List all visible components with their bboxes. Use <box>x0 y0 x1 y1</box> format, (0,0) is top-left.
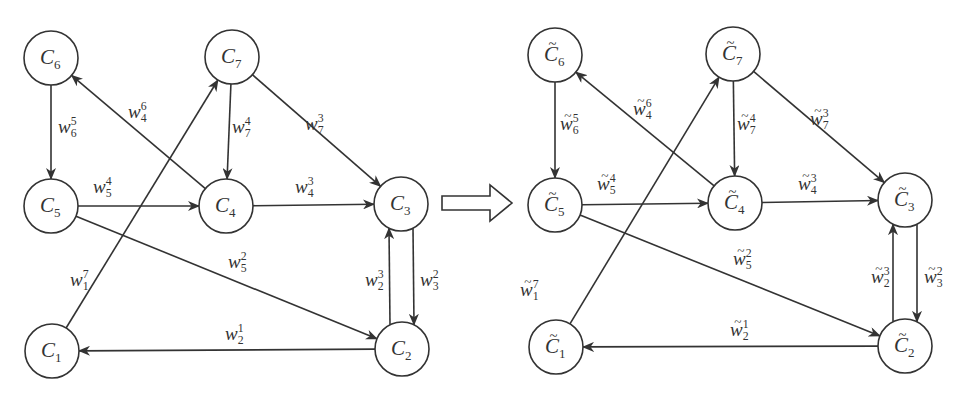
node-c6: C6 <box>24 31 78 85</box>
transform-arrow-icon <box>442 185 512 221</box>
tilde-accent: ~ <box>564 108 571 123</box>
weight-label-2-3: w23 <box>365 268 384 293</box>
node-c5: C5 <box>24 179 78 233</box>
weight-label-2-1: w21 <box>225 322 244 347</box>
tilde-accent: ~ <box>637 93 644 108</box>
edge-5-to-4 <box>582 203 708 204</box>
tilde-accent: ~ <box>601 168 608 183</box>
node-c2: C2~ <box>878 319 932 373</box>
tilde-accent: ~ <box>814 103 821 118</box>
tilde-accent: ~ <box>549 36 557 52</box>
node-c4: C4~ <box>708 176 762 230</box>
tilde-accent: ~ <box>549 186 557 202</box>
node-c6: C6~ <box>528 28 582 82</box>
transformed-graph: w65~w46~w74~w73~w54~w43~w17~w52~w23~w32~… <box>520 27 943 374</box>
tilde-accent: ~ <box>928 261 935 276</box>
tilde-accent: ~ <box>550 328 558 344</box>
node-c3: C3 <box>374 177 428 231</box>
weight-label-4-6: w46 <box>128 100 147 125</box>
edge-4-to-6 <box>576 72 714 186</box>
tilde-accent: ~ <box>741 108 748 123</box>
weight-label-6-5: w65 <box>58 115 77 140</box>
node-c2: C2 <box>375 322 429 376</box>
node-c3: C3~ <box>878 173 932 227</box>
tilde-accent: ~ <box>802 168 809 183</box>
tilde-accent: ~ <box>875 261 882 276</box>
tilde-accent: ~ <box>524 274 531 289</box>
weight-label-4-3: w43 <box>295 175 314 200</box>
weight-label-1-7: w17 <box>70 268 89 293</box>
node-c1: C1 <box>25 324 79 378</box>
edge-2-to-1 <box>79 349 375 351</box>
tilde-accent: ~ <box>899 327 907 343</box>
tilde-accent: ~ <box>734 314 741 329</box>
node-c4: C4 <box>199 179 253 233</box>
weight-label-7-3: w73 <box>305 112 324 137</box>
tilde-accent: ~ <box>737 243 744 258</box>
original-graph: w65w46w74w73w54w43w17w52w23w32w21C1C2C3C… <box>24 30 439 378</box>
edge-5-to-2 <box>580 215 880 336</box>
tilde-accent: ~ <box>729 184 737 200</box>
node-c7: C7~ <box>706 27 760 81</box>
node-c1: C1~ <box>529 320 583 374</box>
edge-7-to-4 <box>227 84 231 179</box>
weight-label-7-4: w74 <box>232 115 251 140</box>
node-c5: C5~ <box>528 178 582 232</box>
node-c7: C7 <box>205 30 259 84</box>
edge-3-to-2 <box>413 228 414 325</box>
tilde-accent: ~ <box>727 35 735 51</box>
edge-5-to-2 <box>76 216 377 339</box>
weight-label-3-2: w32 <box>420 268 439 293</box>
edge-7-to-4 <box>733 81 734 176</box>
edge-2-to-3 <box>389 228 390 325</box>
graph-diagram: w65w46w74w73w54w43w17w52w23w32w21C1C2C3C… <box>0 0 960 396</box>
weight-label-5-4: w54 <box>93 175 112 200</box>
edge-2-to-1 <box>583 346 878 347</box>
edge-4-to-3 <box>253 204 374 205</box>
weight-label-5-2: w52 <box>228 250 247 275</box>
edge-4-to-3 <box>762 200 878 202</box>
tilde-accent: ~ <box>899 181 907 197</box>
